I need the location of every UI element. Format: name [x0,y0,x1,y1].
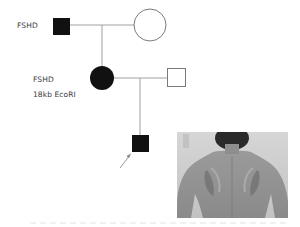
daughter-genotype-label: 18kb EcoRI [33,91,76,99]
faint-caption-strip [30,222,290,224]
proband-affected-male-symbol [132,135,149,152]
unaffected-female-symbol [134,9,166,41]
patient-back-illustration [177,132,288,218]
proband-arrowhead-icon [127,154,132,159]
affected-male-symbol [53,18,70,35]
affected-female-symbol [90,66,114,90]
father-label: FSHD [17,22,38,30]
daughter-label: FSHD [33,76,54,84]
unaffected-male-symbol [168,69,186,87]
patient-back-photo [177,132,288,218]
